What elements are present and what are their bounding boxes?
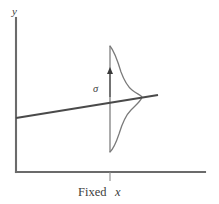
statistics-figure: y σ Fixed x <box>0 0 219 204</box>
regression-normal-distribution-diagram: y σ Fixed x <box>0 0 219 204</box>
y-axis-label: y <box>11 5 17 17</box>
fixed-x-caption-prefix: Fixed <box>78 185 107 199</box>
sigma-label: σ <box>93 83 99 94</box>
fixed-x-caption-variable: x <box>114 185 121 199</box>
sigma-arrow-head-icon <box>107 67 113 74</box>
regression-line <box>16 95 158 118</box>
